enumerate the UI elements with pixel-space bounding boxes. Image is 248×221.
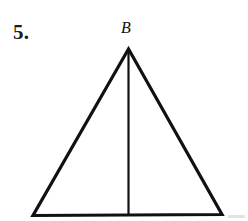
scan-smudge-artifact [228, 215, 245, 218]
figure-page: 5. B [0, 0, 248, 221]
vertex-label-b: B [121, 20, 131, 36]
